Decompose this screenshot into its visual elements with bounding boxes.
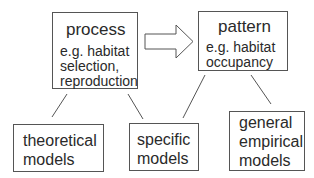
general-empirical-models-line-3: models: [239, 151, 291, 170]
theoretical-models-line-2: models: [23, 150, 75, 169]
general-empirical-models-box: general empirical models: [229, 111, 305, 171]
pattern-example-line-2: occupancy: [206, 55, 273, 70]
pattern-box: pattern e.g. habitat occupancy: [198, 11, 288, 71]
specific-models-line-2: models: [137, 149, 189, 168]
theoretical-models-box: theoretical models: [13, 124, 104, 172]
process-example-line-1: e.g. habitat: [60, 44, 129, 59]
pattern-example-line-1: e.g. habitat: [206, 40, 275, 55]
process-title: process: [66, 21, 126, 39]
specific-models-line-1: specific: [137, 130, 190, 149]
process-example-line-3: reproduction: [60, 74, 138, 89]
pattern-title: pattern: [218, 18, 271, 36]
specific-models-box: specific models: [129, 123, 199, 171]
process-example-line-2: selection,: [60, 59, 119, 74]
process-box: process e.g. habitat selection, reproduc…: [52, 12, 138, 89]
theoretical-models-line-1: theoretical: [23, 131, 97, 150]
general-empirical-models-line-2: empirical: [239, 132, 303, 151]
right-arrow-icon: [145, 25, 193, 58]
general-empirical-models-line-1: general: [239, 113, 292, 132]
